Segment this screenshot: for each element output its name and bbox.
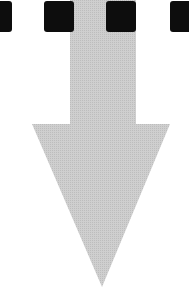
square-3 (106, 1, 136, 32)
square-1 (0, 1, 12, 32)
square-4 (170, 1, 189, 32)
square-2 (44, 1, 74, 32)
arrow-head (32, 124, 170, 287)
down-arrow-graphic (0, 0, 189, 306)
